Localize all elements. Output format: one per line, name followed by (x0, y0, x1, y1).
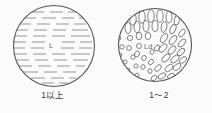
figure-container: L 1以上 (0, 0, 212, 113)
left-caption: 1以上 (0, 90, 106, 101)
figure-panel-right: Ld 1～2 (106, 0, 212, 113)
right-inner-label: Ld (144, 42, 152, 51)
right-caption: 1～2 (106, 90, 212, 101)
left-inner-label: L (49, 41, 53, 50)
figure-panel-left: L 1以上 (0, 0, 106, 113)
right-circle-diagram (106, 0, 212, 92)
